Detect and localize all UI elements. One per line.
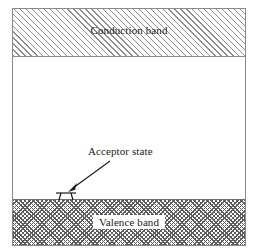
conduction-band-region: Conduction band — [13, 9, 245, 57]
diagram-frame: Conduction band Valence band — [12, 8, 246, 246]
valence-band-label: Valence band — [93, 215, 165, 229]
acceptor-state-label: Acceptor state — [88, 145, 153, 157]
band-diagram: Conduction band Valence band Acceptor st… — [0, 0, 260, 252]
valence-band-region: Valence band — [13, 199, 245, 245]
band-gap-region — [13, 57, 245, 199]
conduction-band-label: Conduction band — [89, 24, 170, 36]
